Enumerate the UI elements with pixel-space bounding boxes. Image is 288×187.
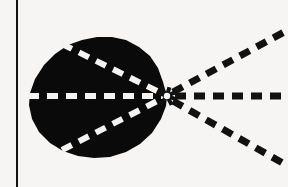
- figure-canvas: Converging and diverging dashed rays at …: [0, 0, 288, 187]
- figure-svg: [0, 0, 288, 187]
- focal-point-core: [164, 93, 170, 99]
